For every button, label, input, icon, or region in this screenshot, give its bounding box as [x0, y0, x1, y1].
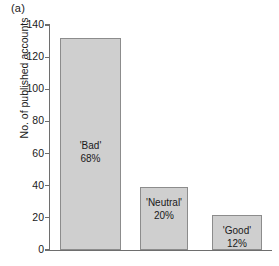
y-tick-mark — [45, 153, 49, 154]
y-tick-label: 60 — [4, 148, 44, 159]
bar-percent-label: 68% — [61, 152, 120, 165]
bar-category-label: 'Neutral' — [141, 196, 187, 209]
bar-label: 'Good'12% — [213, 224, 261, 250]
y-tick-mark — [45, 249, 49, 250]
x-axis-line — [49, 250, 272, 251]
y-tick-mark — [45, 57, 49, 58]
bar-percent-label: 20% — [141, 209, 187, 222]
bar-category-label: 'Good' — [213, 224, 261, 237]
y-tick-mark — [45, 185, 49, 186]
y-tick-label: 40 — [4, 180, 44, 191]
bar-label: 'Bad'68% — [61, 139, 120, 165]
bar-percent-label: 12% — [213, 237, 261, 250]
y-tick-label: 120 — [4, 51, 44, 62]
bar: 'Bad'68% — [60, 38, 121, 250]
y-tick-mark — [45, 89, 49, 90]
bar: 'Good'12% — [212, 215, 262, 250]
y-tick-label: 0 — [4, 244, 44, 255]
bar-label: 'Neutral'20% — [141, 196, 187, 222]
y-tick-label: 140 — [4, 19, 44, 30]
y-tick-mark — [45, 24, 49, 25]
y-tick-mark — [45, 217, 49, 218]
bar-chart-figure: (a) No. of published accounts 0204060801… — [0, 0, 279, 266]
y-tick-label: 100 — [4, 83, 44, 94]
y-tick-label: 80 — [4, 115, 44, 126]
bar: 'Neutral'20% — [140, 187, 188, 250]
plot-area: 'Bad'68%'Neutral'20%'Good'12% — [50, 25, 272, 250]
bar-category-label: 'Bad' — [61, 139, 120, 152]
y-tick-mark — [45, 121, 49, 122]
y-tick-label: 20 — [4, 212, 44, 223]
